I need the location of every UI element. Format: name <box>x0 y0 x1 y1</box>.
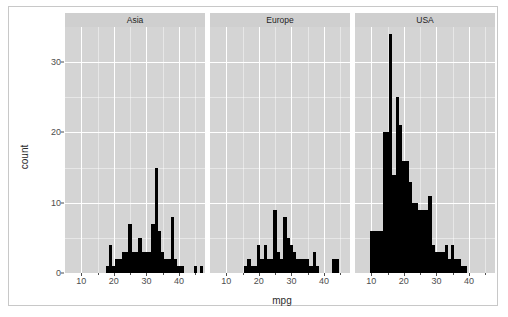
facet-strip-usa: USA <box>355 13 495 27</box>
x-tick-mark-minor <box>420 273 421 275</box>
gridline-minor-horizontal <box>355 168 495 169</box>
gridline-minor-horizontal <box>210 97 350 98</box>
gridline-major-vertical <box>179 27 180 273</box>
facet-strip-europe: Europe <box>210 13 350 27</box>
gridline-minor-vertical <box>243 27 244 273</box>
x-tick-label: 30 <box>431 277 441 286</box>
x-tick-mark-minor <box>163 273 164 275</box>
gridline-major-horizontal <box>210 62 350 63</box>
x-tick-label: 40 <box>319 277 329 286</box>
gridline-major-vertical <box>324 27 325 273</box>
gridline-minor-horizontal <box>65 168 205 169</box>
gridline-minor-vertical <box>453 27 454 273</box>
gridline-minor-horizontal <box>355 97 495 98</box>
gridline-major-vertical <box>226 27 227 273</box>
x-tick-mark-minor <box>195 273 196 275</box>
gridline-major-horizontal <box>65 132 205 133</box>
facet-panel-europe: Europe10203040 <box>210 13 350 299</box>
gridline-minor-vertical <box>195 27 196 273</box>
facet-panel-asia: Asia10203040 <box>65 13 205 299</box>
gridline-major-vertical <box>259 27 260 273</box>
x-tick-label: 20 <box>399 277 409 286</box>
histogram-bar <box>181 266 184 273</box>
facet-strip-label: Asia <box>127 16 144 25</box>
y-axis-title: count <box>17 7 31 307</box>
x-tick-mark-minor <box>485 273 486 275</box>
y-tick-mark <box>61 132 64 133</box>
gridline-major-horizontal <box>355 132 495 133</box>
y-axis-tick-labels: 0102030 <box>31 7 61 307</box>
y-tick-label: 10 <box>39 198 61 207</box>
x-tick-label: 10 <box>76 277 86 286</box>
gridline-major-horizontal <box>355 62 495 63</box>
facet-strip-label: USA <box>416 16 433 25</box>
x-tick-label: 20 <box>109 277 119 286</box>
y-tick-mark <box>61 62 64 63</box>
gridline-minor-horizontal <box>65 97 205 98</box>
panel-plot-area <box>65 27 205 273</box>
x-tick-label: 30 <box>286 277 296 286</box>
x-tick-label: 30 <box>141 277 151 286</box>
gridline-minor-horizontal <box>210 238 350 239</box>
histogram-bar <box>335 259 338 273</box>
gridline-major-horizontal <box>355 203 495 204</box>
x-tick-label: 40 <box>464 277 474 286</box>
facet-panel-usa: USA10203040 <box>355 13 495 299</box>
y-tick-label: 0 <box>39 269 61 278</box>
x-tick-label: 20 <box>254 277 264 286</box>
y-tick-mark <box>61 202 64 203</box>
gridline-major-vertical <box>469 27 470 273</box>
histogram-bar <box>200 266 203 273</box>
gridline-minor-vertical <box>163 27 164 273</box>
gridline-minor-vertical <box>340 27 341 273</box>
facet-strip-label: Europe <box>266 16 293 25</box>
x-tick-mark-minor <box>243 273 244 275</box>
faceted-histogram-plot: count 0102030 Asia10203040Europe10203040… <box>9 7 499 307</box>
panel-plot-area <box>355 27 495 273</box>
x-tick-mark-minor <box>130 273 131 275</box>
x-tick-mark-minor <box>98 273 99 275</box>
gridline-minor-horizontal <box>65 238 205 239</box>
gridline-minor-vertical <box>98 27 99 273</box>
gridline-minor-horizontal <box>210 168 350 169</box>
x-tick-label: 40 <box>174 277 184 286</box>
histogram-bar <box>316 266 319 273</box>
gridline-major-vertical <box>114 27 115 273</box>
gridline-major-vertical <box>146 27 147 273</box>
facet-panels-row: Asia10203040Europe10203040USA10203040 <box>65 7 499 307</box>
x-tick-label: 10 <box>366 277 376 286</box>
x-tick-mark-minor <box>453 273 454 275</box>
gridline-major-horizontal <box>210 132 350 133</box>
gridline-major-vertical <box>291 27 292 273</box>
y-tick-mark <box>61 273 64 274</box>
gridline-minor-vertical <box>485 27 486 273</box>
panel-plot-area <box>210 27 350 273</box>
chart-frame: count 0102030 Asia10203040Europe10203040… <box>8 6 498 306</box>
gridline-minor-vertical <box>308 27 309 273</box>
gridline-major-vertical <box>436 27 437 273</box>
y-axis-title-label: count <box>19 145 30 169</box>
gridline-major-horizontal <box>210 203 350 204</box>
x-tick-mark-minor <box>275 273 276 275</box>
x-tick-mark-minor <box>308 273 309 275</box>
gridline-major-horizontal <box>65 62 205 63</box>
x-tick-mark-minor <box>388 273 389 275</box>
histogram-bar <box>464 266 467 273</box>
gridline-major-horizontal <box>65 203 205 204</box>
y-tick-label: 20 <box>39 128 61 137</box>
x-tick-label: 10 <box>221 277 231 286</box>
facet-strip-asia: Asia <box>65 13 205 27</box>
x-axis-title: mpg <box>65 295 499 306</box>
y-tick-label: 30 <box>39 58 61 67</box>
x-tick-mark-minor <box>340 273 341 275</box>
gridline-major-vertical <box>81 27 82 273</box>
histogram-bar <box>194 266 197 273</box>
